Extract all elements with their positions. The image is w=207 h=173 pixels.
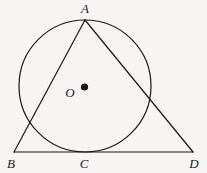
vertex-label-A: A [80,1,89,16]
center-label-O: O [65,85,75,100]
vertex-label-D: D [188,156,199,171]
vertex-label-B: B [7,156,15,171]
geometry-canvas: A B C D O [0,0,207,173]
vertex-label-C: C [80,156,89,171]
geometry-figure: A B C D O [0,0,207,173]
figure-background [0,0,207,173]
center-point-O [81,83,88,90]
